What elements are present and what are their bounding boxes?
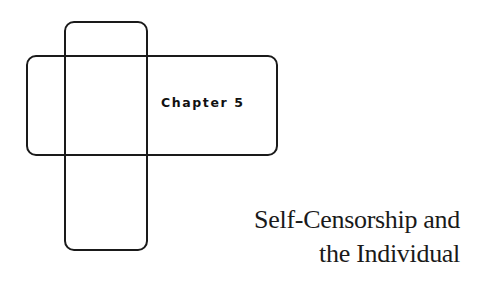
chapter-title-line-1: Self-Censorship and <box>254 203 460 237</box>
chapter-title-line-2: the Individual <box>254 237 460 271</box>
chapter-title: Self-Censorship and the Individual <box>254 203 460 271</box>
chapter-number-label: Chapter 5 <box>161 95 245 110</box>
